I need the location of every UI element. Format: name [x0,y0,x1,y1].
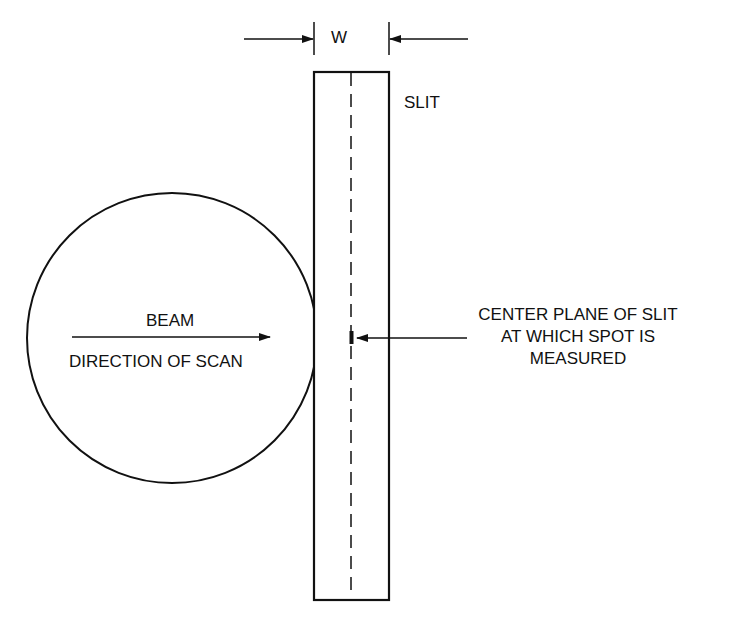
measurement-spot-mark [350,331,354,344]
slit-label: SLIT [404,92,440,114]
center-plane-line-3: MEASURED [468,348,688,370]
beam-label: BEAM [146,310,194,332]
center-plane-label: CENTER PLANE OF SLIT AT WHICH SPOT IS ME… [468,304,688,370]
width-dimension [244,22,468,55]
width-label: W [331,27,347,49]
beam-circle [27,193,317,483]
direction-of-scan-label: DIRECTION OF SCAN [69,351,243,373]
center-plane-line-2: AT WHICH SPOT IS [468,326,688,348]
center-plane-line-1: CENTER PLANE OF SLIT [468,304,688,326]
